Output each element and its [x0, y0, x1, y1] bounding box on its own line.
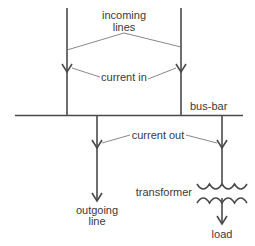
label-bus-bar: bus-bar	[190, 100, 228, 112]
label-current-in: current in	[101, 71, 147, 83]
label-load: load	[212, 228, 233, 240]
leader-incoming-lines	[67, 33, 181, 50]
label-current-out: current out	[132, 129, 185, 141]
leader-current-in-left	[72, 68, 100, 77]
label-transformer: transformer	[136, 186, 193, 198]
leader-current-in-right	[148, 68, 176, 79]
bus-bar-diagram: incoming lines current in bus-bar outgoi…	[0, 0, 255, 246]
leader-current-out-right	[186, 135, 217, 143]
label-incoming-line1: incoming	[102, 9, 146, 21]
label-incoming-line2: lines	[113, 21, 136, 33]
label-outgoing-line2: line	[88, 215, 105, 227]
leader-current-out-left	[102, 135, 130, 143]
transformer-coil-icon	[197, 184, 247, 189]
